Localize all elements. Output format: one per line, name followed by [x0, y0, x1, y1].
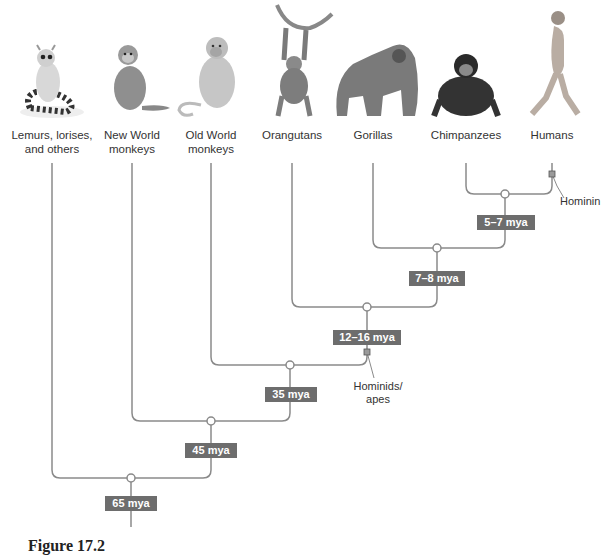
- branch-old-world: [211, 163, 290, 365]
- branch-gorillas: [373, 163, 437, 248]
- hominin-marker-icon: [549, 171, 555, 177]
- divergence-label-45: 45 mya: [185, 443, 237, 458]
- branch-lemurs: [52, 163, 131, 478]
- node-45: [207, 417, 215, 425]
- hominin-annotation: Hominin: [560, 195, 600, 208]
- node-12-16: [363, 303, 371, 311]
- hominids-annotation: Hominids/ apes: [350, 380, 406, 406]
- divergence-label-65: 65 mya: [105, 496, 157, 511]
- node-35: [286, 361, 294, 369]
- branch-humans: [505, 163, 552, 194]
- hominids-line2: apes: [350, 393, 406, 406]
- branch-new-world: [132, 163, 211, 421]
- figure-caption: Figure 17.2: [28, 537, 105, 555]
- divergence-label-35: 35 mya: [265, 387, 317, 402]
- branch-orangutans: [292, 163, 367, 307]
- divergence-label-5-7: 5–7 mya: [477, 215, 535, 230]
- node-65: [127, 474, 135, 482]
- branch-chimpanzees: [466, 163, 505, 194]
- node-5-7: [501, 190, 509, 198]
- hominids-marker-icon: [364, 349, 370, 355]
- divergence-label-7-8: 7–8 mya: [409, 271, 465, 286]
- node-7-8: [433, 244, 441, 252]
- divergence-label-12-16: 12–16 mya: [333, 330, 401, 345]
- hominids-line1: Hominids/: [350, 380, 406, 393]
